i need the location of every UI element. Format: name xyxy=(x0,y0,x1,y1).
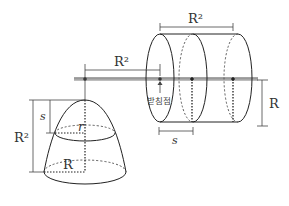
base-radius-label: R xyxy=(63,157,74,172)
paraboloid-solid xyxy=(44,100,126,184)
cone-depth-label: s xyxy=(40,110,46,123)
lever-rod xyxy=(74,77,258,81)
slice-thickness-label: s xyxy=(172,134,178,147)
slice-radius-label: r xyxy=(78,120,85,134)
lever-diagram: R² 받침점 R² R xyxy=(0,0,289,206)
cylinder-radius-label: R xyxy=(269,96,280,111)
cylinder-radius-dimension xyxy=(257,80,268,126)
fulcrum-label: 받침점 xyxy=(147,96,171,106)
fulcrum-marker: 받침점 xyxy=(147,81,171,106)
arrow-up-icon xyxy=(158,81,163,85)
lever-arm-label: R² xyxy=(114,54,129,69)
cone-height-label: R² xyxy=(14,130,29,145)
diagram-canvas: R² 받침점 R² R xyxy=(0,0,289,206)
lever-arm-dimension: R² xyxy=(85,54,160,100)
cylinder-length-label: R² xyxy=(188,11,203,26)
